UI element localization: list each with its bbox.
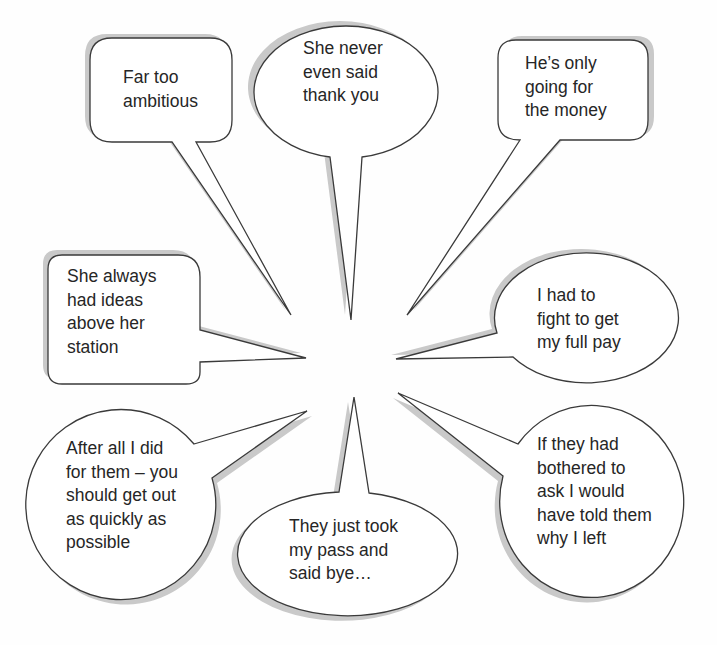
bubble-text-never-said-thank-you: She never even said thank you xyxy=(303,37,383,108)
bubble-text-bothered-to-ask: If they had bothered to ask I would have… xyxy=(537,433,652,551)
bubble-fight-for-full-pay-shape xyxy=(391,249,678,383)
bubble-text-took-my-pass: They just took my pass and said bye… xyxy=(289,515,398,586)
bubble-text-fight-for-full-pay: I had to fight to get my full pay xyxy=(537,284,621,355)
speech-bubble-diagram: Far too ambitious She never even said th… xyxy=(0,0,717,645)
bubble-text-ideas-above-station: She always had ideas above her station xyxy=(67,265,157,359)
bubble-text-far-too-ambitious: Far too ambitious xyxy=(123,66,198,113)
bubble-text-only-going-for-money: He’s only going for the money xyxy=(525,52,607,123)
bubble-text-after-all-i-did: After all I did for them – you should ge… xyxy=(66,437,178,555)
